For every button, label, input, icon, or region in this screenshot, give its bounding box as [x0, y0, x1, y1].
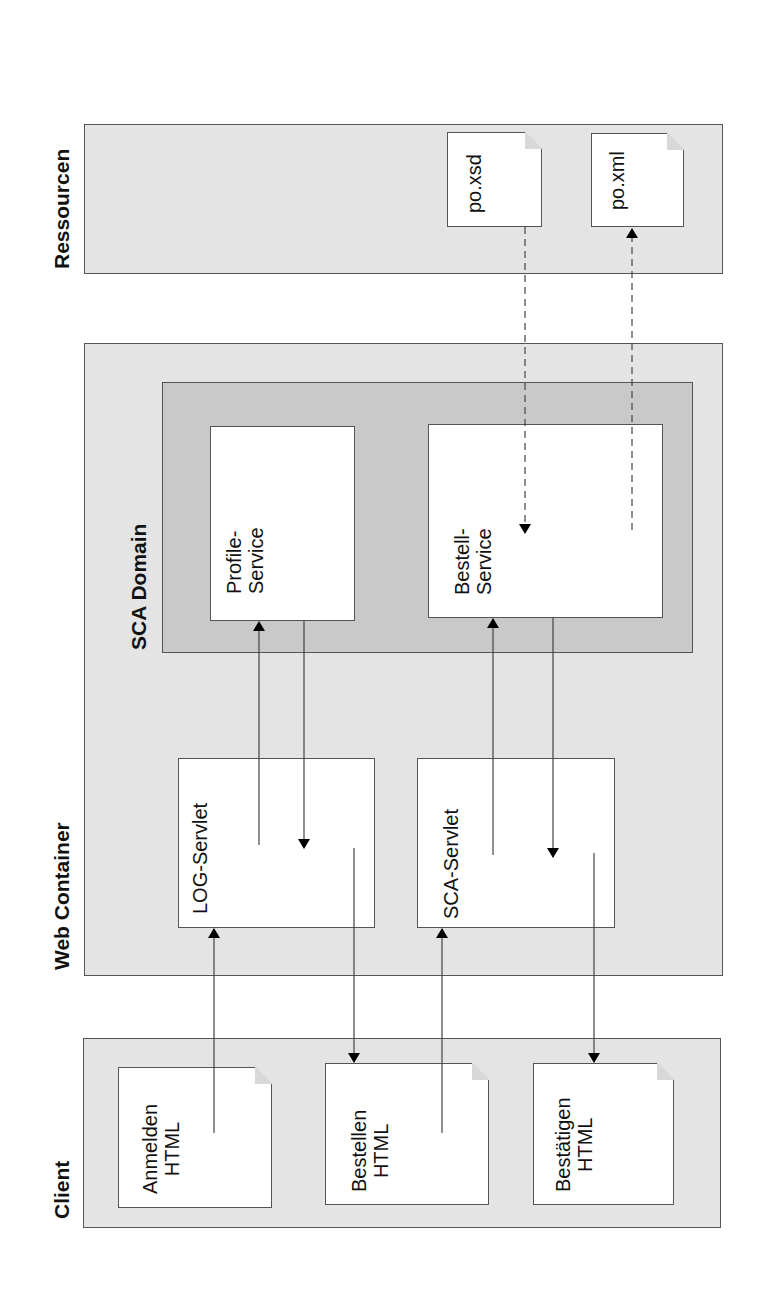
connector-layer	[0, 0, 765, 1294]
